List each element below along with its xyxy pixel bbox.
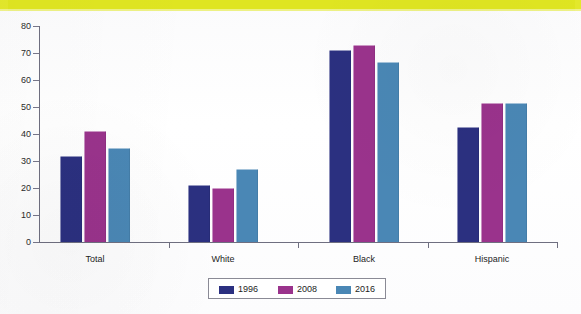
- y-axis-tick: [33, 215, 39, 216]
- y-axis-tick: [33, 107, 39, 108]
- bar-edge-top: [457, 127, 479, 128]
- y-axis-tick-label-wrap: 70: [0, 49, 31, 58]
- bar-edge-right: [350, 50, 351, 242]
- y-axis-tick-label-wrap: 10: [0, 211, 31, 220]
- bar-fill: [505, 103, 527, 242]
- bar-edge-left: [457, 127, 458, 242]
- title-banner: [0, 0, 581, 11]
- y-axis-tick: [33, 188, 39, 189]
- legend-label: 2008: [297, 284, 317, 295]
- bar-edge-left: [108, 148, 109, 243]
- y-axis-tick-label: 50: [5, 103, 31, 112]
- x-axis-group-separator: [428, 242, 429, 248]
- y-axis-tick: [33, 161, 39, 162]
- y-axis-tick-label-wrap: 30: [0, 157, 31, 166]
- x-axis-category-label: Black: [324, 254, 404, 264]
- bar-fill: [329, 50, 351, 242]
- y-axis-tick-label: 60: [5, 76, 31, 85]
- y-axis-tick-label: 10: [5, 211, 31, 220]
- bar-edge-right: [233, 188, 234, 242]
- y-axis-tick-label: 70: [5, 49, 31, 58]
- bar-edge-left: [84, 131, 85, 242]
- bar-edge-top: [188, 185, 210, 186]
- x-axis-group-separator: [298, 242, 299, 248]
- y-axis-tick-label-wrap: 20: [0, 184, 31, 193]
- x-axis-category-label: Total: [55, 254, 135, 264]
- bar-edge-right: [398, 62, 399, 242]
- bar-edge-top: [481, 103, 503, 104]
- bar-edge-right: [257, 169, 258, 242]
- bar: [457, 127, 479, 242]
- bar-fill: [457, 127, 479, 242]
- x-axis-group-separator: [169, 242, 170, 248]
- chart-figure: 01020304050607080 TotalWhiteBlackHispani…: [0, 0, 581, 314]
- bar: [212, 188, 234, 242]
- bar-edge-left: [60, 156, 61, 242]
- y-axis-line: [39, 26, 40, 243]
- bar-edge-right: [478, 127, 479, 242]
- bar-edge-left: [236, 169, 237, 242]
- bar-edge-top: [212, 188, 234, 189]
- y-axis-tick-label: 80: [5, 22, 31, 31]
- bar: [60, 156, 82, 242]
- y-axis-tick-label-wrap: 60: [0, 76, 31, 85]
- y-axis-tick-label: 30: [5, 157, 31, 166]
- bar-fill: [188, 185, 210, 242]
- bar: [329, 50, 351, 242]
- bar-edge-top: [353, 45, 375, 46]
- bar-edge-top: [377, 62, 399, 63]
- bar-edge-top: [60, 156, 82, 157]
- x-axis-category-label: Hispanic: [452, 254, 532, 264]
- bar-edge-top: [505, 103, 527, 104]
- legend-label: 1996: [238, 284, 258, 295]
- bar-edge-right: [105, 131, 106, 242]
- bar-fill: [353, 45, 375, 242]
- bar-edge-left: [329, 50, 330, 242]
- y-axis-tick-label-wrap: 80: [0, 22, 31, 31]
- bar-fill: [84, 131, 106, 242]
- bar-edge-left: [212, 188, 213, 242]
- bar: [84, 131, 106, 242]
- y-axis-tick-label-wrap: 0: [0, 238, 31, 247]
- y-axis-tick-label-wrap: 40: [0, 130, 31, 139]
- bar-edge-right: [209, 185, 210, 242]
- bar: [377, 62, 399, 242]
- bar-fill: [108, 148, 130, 243]
- bar-edge-right: [81, 156, 82, 242]
- y-axis-tick-label: 20: [5, 184, 31, 193]
- bar-fill: [481, 103, 503, 242]
- y-axis-tick-label-wrap: 50: [0, 103, 31, 112]
- bar-edge-left: [188, 185, 189, 242]
- x-axis-category-label: White: [183, 254, 263, 264]
- bar-edge-top: [236, 169, 258, 170]
- bar-fill: [60, 156, 82, 242]
- bar-edge-right: [526, 103, 527, 242]
- bar-edge-top: [329, 50, 351, 51]
- legend-swatch: [219, 286, 234, 294]
- bar: [353, 45, 375, 242]
- bar-edge-left: [481, 103, 482, 242]
- bar: [505, 103, 527, 242]
- bar-edge-left: [377, 62, 378, 242]
- y-axis-tick-label: 40: [5, 130, 31, 139]
- bar-fill: [212, 188, 234, 242]
- bar-edge-top: [84, 131, 106, 132]
- y-axis-tick-label: 0: [5, 238, 31, 247]
- bar-edge-right: [502, 103, 503, 242]
- bar-edge-left: [505, 103, 506, 242]
- x-axis-group-separator: [557, 242, 558, 248]
- y-axis-tick: [33, 26, 39, 27]
- bar-fill: [236, 169, 258, 242]
- legend-swatch: [278, 286, 293, 294]
- bar-edge-right: [129, 148, 130, 243]
- bar: [108, 148, 130, 243]
- bar-fill: [377, 62, 399, 242]
- y-axis-tick: [33, 242, 39, 243]
- bar: [188, 185, 210, 242]
- bar-edge-left: [353, 45, 354, 242]
- title-banner-highlight: [0, 9, 581, 11]
- y-axis-tick: [33, 80, 39, 81]
- legend-label: 2016: [355, 284, 375, 295]
- legend: 199620082016: [208, 278, 386, 299]
- bar-edge-top: [108, 148, 130, 149]
